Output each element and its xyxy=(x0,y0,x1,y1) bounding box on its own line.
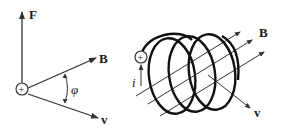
diagram-canvas: F B v φ + v B xyxy=(0,0,282,133)
charge-sign: + xyxy=(138,52,144,63)
charge-sign: + xyxy=(19,84,25,95)
angle-label: φ xyxy=(71,82,78,97)
velocity-label: v xyxy=(101,112,108,127)
field-label: B xyxy=(99,51,108,66)
angle-arc xyxy=(65,75,68,102)
velocity-label: v xyxy=(254,105,261,120)
helix-coil xyxy=(142,31,240,117)
left-vector-diagram: F B v φ + xyxy=(16,7,108,127)
force-label: F xyxy=(29,7,37,22)
velocity-vector-arrow xyxy=(28,94,98,118)
current-label: i xyxy=(132,75,136,90)
field-label: B xyxy=(259,25,268,40)
right-coil-diagram: v B + i xyxy=(132,25,268,120)
field-vector-arrow xyxy=(28,58,96,88)
charge-icon: + xyxy=(135,51,147,63)
charge-icon: + xyxy=(16,83,28,95)
